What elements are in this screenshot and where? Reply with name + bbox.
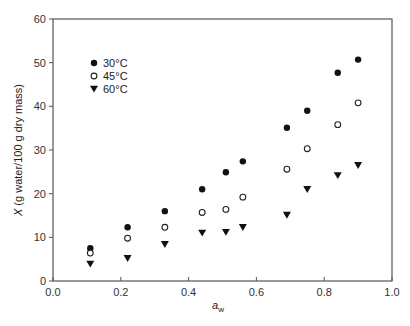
y-tick-label: 40: [34, 100, 46, 112]
data-point-filled-triangle-down: [303, 186, 311, 193]
data-point-filled-triangle-down: [161, 241, 169, 248]
data-point-filled-circle: [223, 169, 229, 175]
data-point-filled-triangle-down: [334, 172, 342, 179]
data-point-open-circle: [304, 146, 310, 152]
data-point-open-circle: [284, 166, 290, 172]
y-tick-label: 10: [34, 231, 46, 243]
data-point-filled-circle: [162, 208, 168, 214]
x-tick-label: 1.0: [384, 286, 399, 298]
legend-filled-circle-icon: [91, 60, 97, 66]
data-point-filled-triangle-down: [222, 229, 230, 236]
data-point-open-circle: [240, 194, 246, 200]
data-point-filled-circle: [124, 224, 130, 230]
x-axis-title: aw: [212, 299, 224, 314]
data-point-filled-triangle-down: [198, 230, 206, 237]
y-axis-title: X (g water/100 g dry mass): [12, 84, 24, 217]
data-point-filled-circle: [335, 70, 341, 76]
data-points: [86, 56, 362, 267]
y-tick-label: 60: [34, 13, 46, 25]
y-tick-label: 30: [34, 144, 46, 156]
data-point-open-circle: [87, 250, 93, 256]
data-point-filled-triangle-down: [124, 255, 132, 262]
x-axis-ticks: 0.00.20.40.60.81.0: [45, 277, 399, 298]
legend: 30°C45°C60°C: [90, 57, 128, 95]
y-tick-label: 50: [34, 57, 46, 69]
x-tick-label: 0.6: [249, 286, 264, 298]
x-tick-label: 0.8: [317, 286, 332, 298]
data-point-open-circle: [125, 235, 131, 241]
data-point-filled-triangle-down: [283, 212, 291, 219]
data-point-filled-circle: [199, 186, 205, 192]
data-point-filled-triangle-down: [86, 261, 94, 268]
data-point-open-circle: [223, 206, 229, 212]
data-point-open-circle: [335, 122, 341, 128]
x-tick-label: 0.0: [45, 286, 60, 298]
legend-label: 45°C: [103, 70, 128, 82]
data-point-open-circle: [162, 224, 168, 230]
data-point-open-circle: [355, 100, 361, 106]
legend-label: 60°C: [103, 83, 128, 95]
data-point-filled-circle: [240, 158, 246, 164]
legend-label: 30°C: [103, 57, 128, 69]
data-point-filled-triangle-down: [239, 224, 247, 231]
data-point-filled-triangle-down: [354, 162, 362, 169]
legend-filled-triangle-down-icon: [90, 86, 98, 93]
x-tick-label: 0.4: [181, 286, 196, 298]
data-point-open-circle: [199, 210, 205, 216]
scatter-chart: 0102030405060 0.00.20.40.60.81.0 30°C45°…: [0, 0, 410, 326]
y-axis-ticks: 0102030405060: [34, 13, 53, 287]
legend-open-circle-icon: [91, 73, 97, 79]
x-tick-label: 0.2: [113, 286, 128, 298]
data-point-filled-circle: [355, 56, 361, 62]
data-point-filled-circle: [284, 125, 290, 131]
data-point-filled-circle: [304, 108, 310, 114]
y-tick-label: 20: [34, 188, 46, 200]
